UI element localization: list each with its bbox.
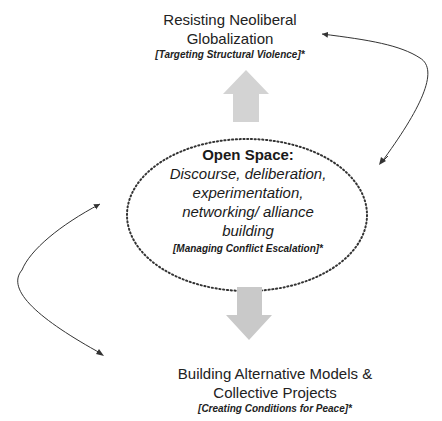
center-node-body-line1: Discourse, deliberation, (140, 164, 356, 183)
top-node-title-line1: Resisting Neoliberal (130, 10, 330, 29)
up-block-arrow (223, 70, 269, 122)
down-block-arrow (226, 287, 272, 340)
left-curved-arrow (18, 204, 102, 354)
top-node-subtitle: [Targeting Structural Violence]* (130, 48, 330, 61)
bottom-node: Building Alternative Models & Collective… (140, 364, 410, 415)
center-node-subtitle: [Managing Conflict Escalation]* (140, 242, 356, 256)
center-node-body-line3: networking/ alliance (140, 202, 356, 221)
center-node-heading: Open Space: (140, 145, 356, 164)
center-node-body-line4: building (140, 221, 356, 240)
bottom-node-title-line1: Building Alternative Models & (140, 364, 410, 383)
right-curved-arrow (322, 34, 428, 163)
center-node: Open Space: Discourse, deliberation, exp… (140, 145, 356, 256)
bottom-node-title-line2: Collective Projects (140, 383, 410, 402)
top-node: Resisting Neoliberal Globalization [Targ… (130, 10, 330, 61)
center-node-body-line2: experimentation, (140, 183, 356, 202)
top-node-title-line2: Globalization (130, 29, 330, 48)
left-curve-lower-arrowhead (96, 349, 104, 356)
bottom-node-subtitle: [Creating Conditions for Peace]* (140, 402, 410, 415)
